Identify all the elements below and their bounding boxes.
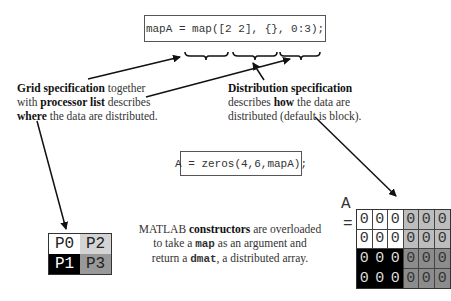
brace-icons bbox=[185, 52, 320, 60]
arrow-block bbox=[315, 117, 396, 196]
brace-icon-proc bbox=[280, 52, 320, 60]
arrow-where bbox=[37, 121, 66, 229]
arrow-processor-list bbox=[146, 59, 290, 97]
brace-icon-grid bbox=[185, 52, 228, 60]
arrow-grid-spec bbox=[88, 57, 180, 79]
brace-icon-dist bbox=[233, 52, 277, 60]
